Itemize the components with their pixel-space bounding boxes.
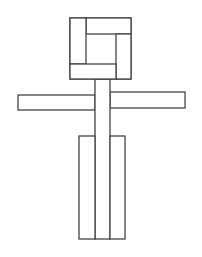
head bbox=[70, 18, 131, 79]
left-leg bbox=[79, 136, 95, 239]
head-bottom-bar bbox=[70, 64, 116, 79]
right-leg bbox=[110, 136, 125, 239]
head-left-bar bbox=[70, 18, 86, 64]
left-arm bbox=[18, 95, 95, 110]
right-arm bbox=[110, 92, 185, 108]
neck-body bbox=[95, 79, 110, 239]
head-right-bar bbox=[116, 34, 131, 79]
head-top-bar bbox=[86, 18, 131, 34]
stick-figure-diagram bbox=[0, 0, 202, 257]
